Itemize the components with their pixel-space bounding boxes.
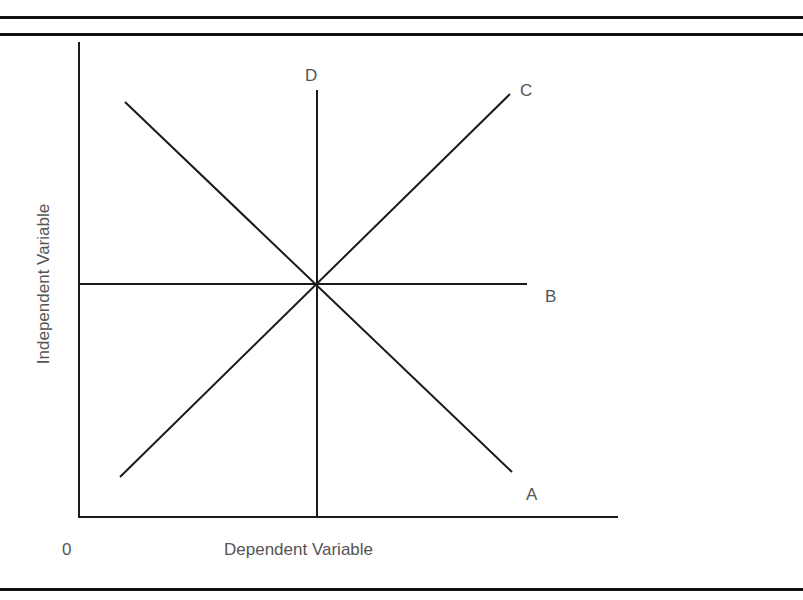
line-c: [120, 94, 510, 477]
relationship-diagram: [0, 0, 803, 600]
label-line-a: A: [526, 486, 537, 503]
label-line-c: C: [520, 82, 532, 99]
label-line-b: B: [545, 288, 556, 305]
y-axis-title: Independent Variable: [34, 204, 54, 364]
origin-label: 0: [62, 541, 71, 558]
label-line-d: D: [305, 67, 317, 84]
line-a: [125, 102, 512, 472]
x-axis-title: Dependent Variable: [224, 540, 373, 560]
